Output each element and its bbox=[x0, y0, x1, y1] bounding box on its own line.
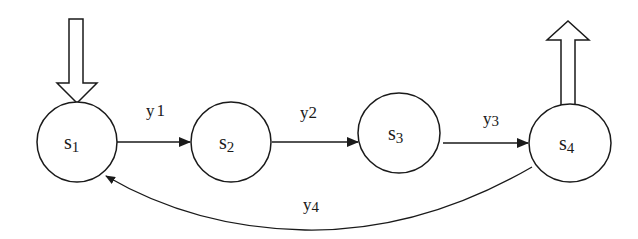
transition-label-y3: y3 bbox=[483, 109, 499, 129]
state-s4-subscript: 4 bbox=[567, 140, 575, 156]
diagram-svg: s1 s2 s3 s4 y1 y2 y3 y4 bbox=[0, 0, 638, 239]
state-s2-subscript: 2 bbox=[227, 139, 235, 155]
transition-label-y4: y4 bbox=[303, 195, 320, 215]
transition-label-y1: y1 bbox=[146, 101, 165, 120]
state-s2-label: s bbox=[219, 131, 227, 153]
state-s4: s4 bbox=[529, 104, 611, 182]
transition-label-y2: y2 bbox=[300, 103, 317, 122]
entry-arrow-icon bbox=[57, 19, 97, 103]
state-s3-label: s bbox=[388, 122, 396, 144]
state-s1-subscript: 1 bbox=[72, 139, 80, 155]
transition-s4-s1 bbox=[106, 167, 532, 230]
exit-arrow-icon bbox=[547, 21, 589, 105]
state-s1: s1 bbox=[37, 102, 117, 182]
state-s4-label: s bbox=[559, 132, 567, 154]
state-diagram: s1 s2 s3 s4 y1 y2 y3 y4 bbox=[0, 0, 638, 239]
state-s2: s2 bbox=[191, 102, 271, 182]
state-s3: s3 bbox=[358, 93, 440, 173]
state-s3-subscript: 3 bbox=[396, 130, 404, 146]
state-s1-label: s bbox=[64, 131, 72, 153]
